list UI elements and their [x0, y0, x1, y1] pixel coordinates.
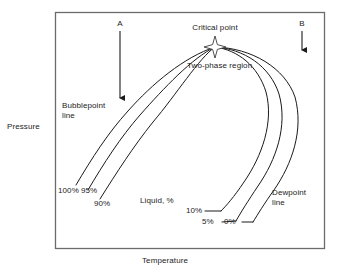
bubblepoint-line-label-row1: Bubblepoint — [62, 101, 105, 111]
dewpoint-line-label-row1: Dewpoint — [272, 188, 306, 198]
quality-label-5-percent: 5% — [202, 217, 214, 227]
quality-label-10-percent: 10% — [186, 206, 202, 216]
liquid-percent-legend: Liquid, % — [140, 196, 174, 206]
y-axis-label: Pressure — [7, 122, 40, 132]
two-phase-region-label: Two-phase region — [187, 61, 252, 71]
quality-label-95-percent: 95% — [81, 186, 97, 196]
curve-10-percent — [215, 47, 269, 211]
dewpoint-line-label: Dewpoint line — [272, 188, 306, 207]
arrow-b-label: B — [299, 19, 304, 29]
bubblepoint-line-label-row2: line — [62, 111, 105, 121]
critical-point-marker — [204, 36, 226, 58]
dewpoint-line-label-row2: line — [272, 198, 306, 208]
phase-diagram-figure: Pressure Temperature A B Critical point … — [0, 0, 339, 275]
phase-envelope-svg — [0, 0, 339, 275]
x-axis-label: Temperature — [142, 256, 188, 266]
arrow-a-label: A — [117, 19, 122, 29]
quality-label-100-percent: 100% — [58, 186, 79, 196]
bubblepoint-line-label: Bubblepoint line — [62, 101, 105, 120]
quality-label-90-percent: 90% — [94, 199, 110, 209]
critical-point-label: Critical point — [192, 23, 237, 33]
quality-label-0-percent: 0% — [224, 217, 236, 227]
